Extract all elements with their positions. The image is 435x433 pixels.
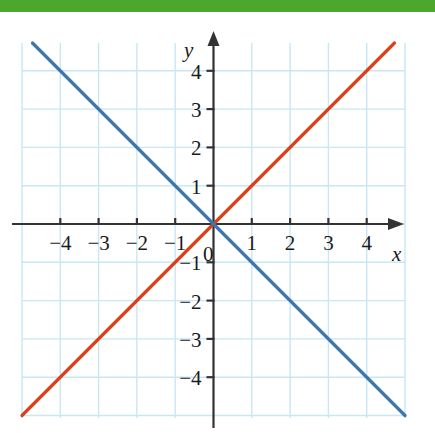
y-tick-label: 4 xyxy=(191,60,202,84)
y-axis-label: y xyxy=(182,38,194,62)
x-tick-label: 1 xyxy=(247,231,258,255)
y-tick-label: 1 xyxy=(191,175,202,199)
y-tick-label: 3 xyxy=(191,98,202,122)
top-green-band xyxy=(0,0,435,12)
x-tick-label: −2 xyxy=(126,231,148,255)
origin-label: 0 xyxy=(203,242,214,266)
coordinate-graph-figure: −4−3−2−112344321−1−2−3−4 x y 0 xyxy=(0,12,435,433)
x-axis-label: x xyxy=(391,242,402,266)
y-tick-label: −4 xyxy=(179,366,202,390)
y-tick-label: −3 xyxy=(179,328,201,352)
x-tick-label: −3 xyxy=(87,231,109,255)
y-tick-label: −2 xyxy=(179,290,201,314)
series-line-2 xyxy=(33,43,406,416)
x-tick-label: −4 xyxy=(49,231,72,255)
series-line-1 xyxy=(22,43,395,416)
x-tick-label: 2 xyxy=(285,231,296,255)
y-tick-label: −1 xyxy=(179,251,201,275)
x-tick-label: 3 xyxy=(323,231,334,255)
page-root: −4−3−2−112344321−1−2−3−4 x y 0 xyxy=(0,0,435,433)
x-tick-label: 4 xyxy=(361,231,372,255)
y-tick-label: 2 xyxy=(191,136,202,160)
graph-canvas: −4−3−2−112344321−1−2−3−4 x y 0 xyxy=(0,12,435,433)
